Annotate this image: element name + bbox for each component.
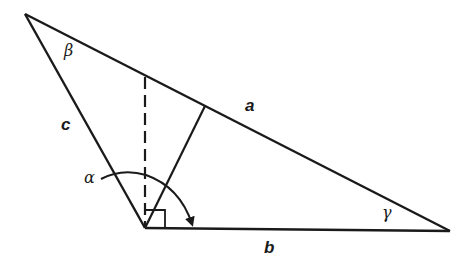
side-b-line (145, 228, 450, 231)
side-a-label: a (245, 97, 254, 114)
right-angle-marker (145, 210, 165, 228)
angle-beta-label: β (64, 43, 73, 59)
triangle-diagram (0, 0, 474, 266)
side-c-label: c (61, 116, 70, 133)
side-c-line (25, 14, 145, 228)
alpha-arc-arrow (101, 172, 192, 224)
side-b-label: b (264, 239, 274, 256)
angle-gamma-label: γ (382, 205, 392, 221)
angle-alpha-label: α (84, 170, 95, 186)
side-a-line (25, 14, 450, 231)
